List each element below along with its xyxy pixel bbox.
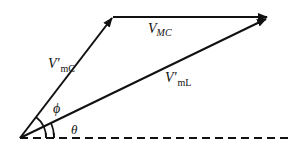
label-theta: θ <box>71 122 78 137</box>
vector-v-ml-prime <box>20 19 266 138</box>
vector-v-mc-prime <box>20 18 112 138</box>
label-v-mc-prime: V'mC <box>48 56 75 74</box>
label-phi: ϕ <box>53 101 60 116</box>
phasor-diagram: VMC V'mC V'mL ϕ θ <box>0 0 305 152</box>
label-v-ml-prime: V'mL <box>165 70 191 88</box>
label-v-mc: VMC <box>148 21 172 38</box>
